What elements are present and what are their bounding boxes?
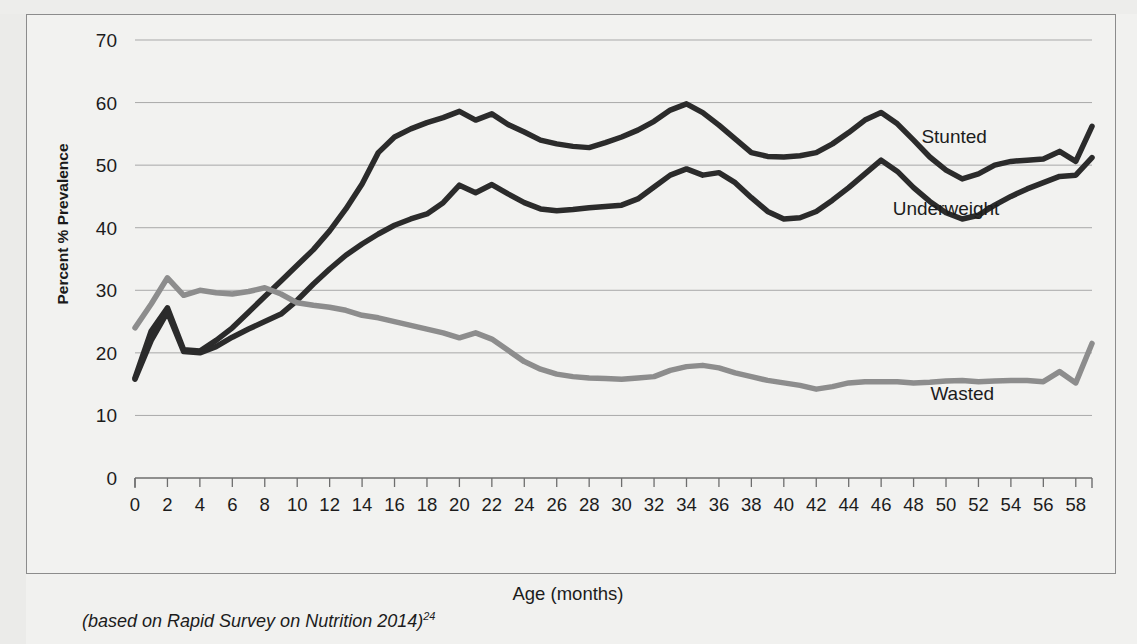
y-tick-label-50: 50 (96, 155, 117, 176)
x-tick-label-2: 2 (162, 494, 172, 515)
gridlines-group (135, 40, 1092, 415)
y-tick-label-10: 10 (96, 405, 117, 426)
x-tick-label-20: 20 (449, 494, 470, 515)
x-axis-title: Age (months) (512, 583, 623, 604)
x-tick-labels: 0246810121416182022242628303234363840424… (130, 494, 1086, 515)
y-tick-label-20: 20 (96, 343, 117, 364)
x-tick-label-12: 12 (319, 494, 340, 515)
caption-text: (based on Rapid Survey on Nutrition 2014… (82, 611, 423, 631)
y-tick-label-70: 70 (96, 30, 117, 51)
x-tick-label-56: 56 (1033, 494, 1054, 515)
x-tick-label-48: 48 (903, 494, 924, 515)
x-tick-label-42: 42 (806, 494, 827, 515)
series-label-underweight: Underweight (893, 198, 1000, 219)
y-tick-label-30: 30 (96, 280, 117, 301)
x-tick-label-18: 18 (417, 494, 438, 515)
x-tick-label-52: 52 (968, 494, 989, 515)
y-tick-label-60: 60 (96, 93, 117, 114)
x-tick-label-22: 22 (482, 494, 503, 515)
series-line-underweight (135, 158, 1092, 380)
x-tick-label-50: 50 (936, 494, 957, 515)
x-tick-label-28: 28 (579, 494, 600, 515)
series-label-wasted: Wasted (930, 383, 994, 404)
x-tick-label-26: 26 (546, 494, 567, 515)
x-tick-label-44: 44 (838, 494, 859, 515)
y-tick-label-0: 0 (106, 468, 117, 489)
y-tick-label-40: 40 (96, 218, 117, 239)
x-tick-label-10: 10 (287, 494, 308, 515)
x-tick-label-36: 36 (709, 494, 730, 515)
x-tick-label-14: 14 (352, 494, 373, 515)
axes-group (135, 478, 1092, 488)
x-tick-label-0: 0 (130, 494, 140, 515)
series-line-wasted (135, 278, 1092, 389)
x-tick-label-8: 8 (260, 494, 270, 515)
x-tick-label-38: 38 (741, 494, 762, 515)
x-tick-label-32: 32 (644, 494, 665, 515)
y-axis-title: Percent % Prevalence (54, 143, 71, 305)
x-tick-label-58: 58 (1065, 494, 1086, 515)
x-tick-label-4: 4 (195, 494, 205, 515)
x-tick-label-24: 24 (514, 494, 535, 515)
x-tick-label-40: 40 (774, 494, 795, 515)
figure-caption: (based on Rapid Survey on Nutrition 2014… (82, 610, 435, 631)
x-tick-label-46: 46 (871, 494, 892, 515)
figure-page: 010203040506070 024681012141618202224262… (0, 0, 1137, 644)
y-tick-labels: 010203040506070 (96, 30, 117, 489)
series-label-stunted: Stunted (921, 126, 987, 147)
x-tick-label-6: 6 (227, 494, 237, 515)
caption-superscript: 24 (422, 610, 435, 622)
x-tick-label-30: 30 (611, 494, 632, 515)
x-tick-label-34: 34 (676, 494, 697, 515)
line-chart: 010203040506070 024681012141618202224262… (0, 0, 1137, 644)
x-tick-label-54: 54 (1001, 494, 1022, 515)
x-tick-label-16: 16 (384, 494, 405, 515)
